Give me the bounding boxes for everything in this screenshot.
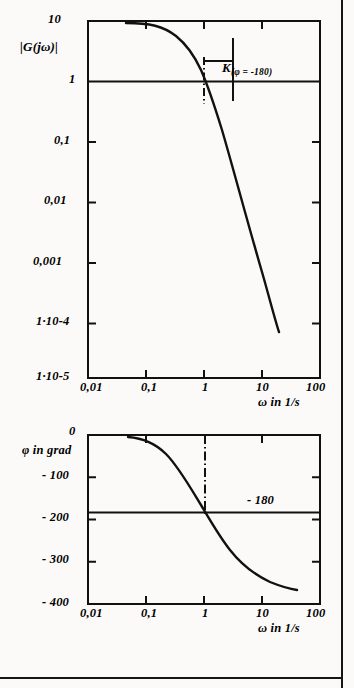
phase-180-label: - 180 bbox=[247, 494, 274, 507]
magnitude-ytick-1e-5-mantissa: 1·10 bbox=[36, 369, 59, 383]
magnitude-x-axis-label: ω in 1/s bbox=[258, 396, 300, 409]
magnitude-xtick-0.01: 0,01 bbox=[80, 381, 103, 394]
phase-ytick--100: - 100 bbox=[42, 469, 69, 482]
gain-margin-annotation: K(φ = -180) bbox=[222, 61, 272, 75]
magnitude-xtick-0.1: 0,1 bbox=[141, 381, 157, 394]
page-right-border bbox=[341, 0, 343, 688]
magnitude-ytick-1e-4: 1·10-4 bbox=[36, 315, 70, 328]
phase-y-axis-label: φ in grad bbox=[22, 444, 71, 457]
phase-xtick-0.1: 0,1 bbox=[141, 607, 157, 620]
magnitude-ytick-0.001: 0,001 bbox=[33, 255, 62, 268]
gain-margin-k-symbol: K bbox=[222, 60, 231, 75]
phase-ytick--300: - 300 bbox=[42, 553, 69, 566]
figure-page: 10 |G(jω)| 1 0,1 0,01 0,001 1·10-4 1·10-… bbox=[0, 0, 354, 688]
phase-xtick-100: 100 bbox=[306, 607, 325, 620]
magnitude-xtick-100: 100 bbox=[306, 381, 325, 394]
phase-xtick-1: 1 bbox=[202, 607, 208, 620]
magnitude-y-ticks bbox=[88, 142, 320, 324]
gain-margin-k-subscript: (φ = -180) bbox=[231, 67, 272, 77]
magnitude-y-axis-label: |G(jω)| bbox=[20, 40, 58, 53]
phase-xtick-10: 10 bbox=[256, 607, 269, 620]
magnitude-xtick-1: 1 bbox=[202, 381, 208, 394]
phase-ytick-0: 0 bbox=[69, 425, 75, 438]
phase-x-axis-label: ω in 1/s bbox=[258, 622, 300, 635]
magnitude-ytick-10: 10 bbox=[48, 13, 61, 26]
magnitude-ytick-1e-4-mantissa: 1·10 bbox=[36, 314, 59, 328]
phase-ytick--400: - 400 bbox=[42, 596, 69, 609]
phase-xtick-0.01: 0,01 bbox=[80, 607, 103, 620]
magnitude-ytick-1e-4-exponent: -4 bbox=[59, 314, 70, 328]
magnitude-ytick-1e-5-exponent: -5 bbox=[59, 369, 70, 383]
bode-figure bbox=[0, 0, 354, 688]
phase-ytick--200: - 200 bbox=[42, 511, 69, 524]
magnitude-ytick-0.1: 0,1 bbox=[54, 134, 70, 147]
magnitude-ytick-1e-5: 1·10-5 bbox=[36, 370, 70, 383]
page-bottom-border bbox=[0, 677, 341, 679]
magnitude-xtick-10: 10 bbox=[256, 381, 269, 394]
magnitude-ytick-0.01: 0,01 bbox=[44, 194, 67, 207]
magnitude-ytick-1: 1 bbox=[69, 73, 75, 86]
